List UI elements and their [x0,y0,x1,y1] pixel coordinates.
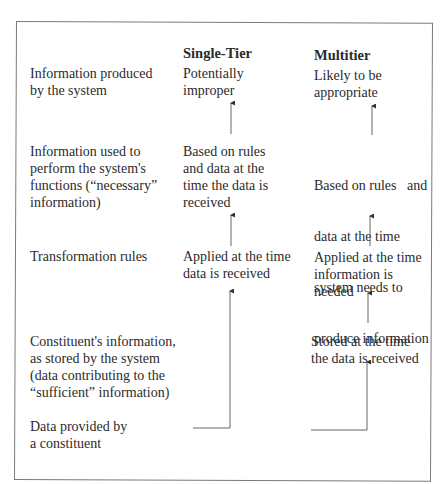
flow-arrows [0,0,445,484]
arrow-single-data-to-rules [193,291,230,428]
arrow-multi-data-to-stored [311,362,367,430]
